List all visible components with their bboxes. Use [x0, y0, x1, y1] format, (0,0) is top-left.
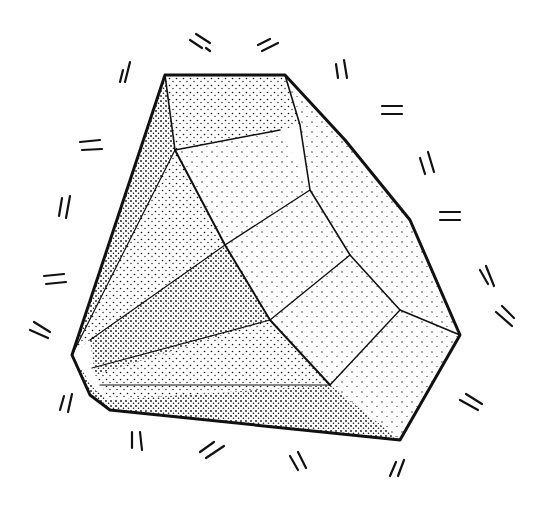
crystal-drawing — [0, 0, 545, 506]
crystal-illustration — [0, 0, 545, 506]
